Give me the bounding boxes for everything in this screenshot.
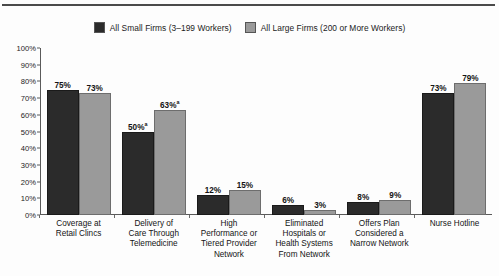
y-axis-tick-label: 70%	[3, 94, 39, 103]
bar-value-label: 75%	[54, 81, 70, 90]
bar-group: 50%a63%a	[116, 48, 191, 215]
footnote-marker: a	[176, 99, 179, 105]
y-axis-tick-mark	[37, 198, 40, 199]
bar-large-firms[interactable]: 63%a	[154, 110, 186, 215]
bar-group: 73%79%	[417, 48, 492, 215]
plot-area: 100%90%80%70%60%50%40%30%20%10%0% 75%73%…	[40, 48, 492, 215]
bar-small-firms[interactable]: 73%	[422, 93, 454, 215]
y-axis-tick-label: 80%	[3, 77, 39, 86]
legend-label-large-firms: All Large Firms (200 or More Workers)	[261, 23, 406, 33]
chart-legend: All Small Firms (3–199 Workers) All Larg…	[0, 22, 499, 33]
x-axis-category-labels: Coverage atRetail ClincsDelivery ofCare …	[41, 219, 492, 260]
bar-small-firms[interactable]: 50%a	[122, 132, 154, 216]
y-axis-tick-label: 100%	[3, 44, 39, 53]
x-axis-category-label: Delivery ofCare ThroughTelemedicine	[116, 219, 191, 260]
y-axis-tick-label: 90%	[3, 60, 39, 69]
x-axis-category-label: Coverage atRetail Clincs	[41, 219, 116, 260]
bar-small-firms[interactable]: 75%	[47, 90, 79, 215]
bar-groups: 75%73%50%a63%a12%15%6%3%8%9%73%79%	[41, 48, 492, 215]
y-axis-tick-label: 10%	[3, 194, 39, 203]
bar-value-label: 79%	[462, 74, 478, 83]
y-axis-tick-label: 60%	[3, 110, 39, 119]
legend-item-large-firms: All Large Firms (200 or More Workers)	[245, 22, 406, 33]
x-axis-tick-mark	[39, 215, 40, 218]
bar-value-label: 6%	[282, 196, 294, 205]
bar-small-firms[interactable]: 6%	[272, 205, 304, 215]
bar-large-firms[interactable]: 73%	[79, 93, 111, 215]
bar-group: 8%9%	[342, 48, 417, 215]
bar-value-label: 3%	[314, 201, 326, 210]
y-axis-tick-mark	[37, 131, 40, 132]
x-axis-category-label: Nurse Hotline	[417, 219, 492, 260]
y-axis-tick-mark	[37, 48, 40, 49]
x-axis-category-label: HighPerformance orTiered ProviderNetwork	[191, 219, 266, 260]
bar-value-label: 50%a	[128, 123, 147, 132]
bar-large-firms[interactable]: 15%	[229, 190, 261, 215]
y-axis-tick-label: 50%	[3, 127, 39, 136]
x-axis-tick-mark	[414, 215, 415, 218]
bar-value-label: 8%	[357, 193, 369, 202]
y-axis-tick-mark	[37, 148, 40, 149]
x-axis-category-label: EliminatedHospitals orHealth SystemsFrom…	[267, 219, 342, 260]
bar-value-label: 73%	[430, 84, 446, 93]
bar-small-firms[interactable]: 12%	[197, 195, 229, 215]
bar-large-firms[interactable]: 79%	[454, 83, 486, 215]
legend-label-small-firms: All Small Firms (3–199 Workers)	[110, 23, 232, 33]
x-axis-tick-mark	[339, 215, 340, 218]
x-axis-tick-mark	[114, 215, 115, 218]
bar-value-label: 73%	[86, 84, 102, 93]
x-axis-tick-mark	[264, 215, 265, 218]
bar-group: 12%15%	[191, 48, 266, 215]
bar-value-label: 15%	[237, 181, 253, 190]
x-axis-category-label: Offers PlanConsidered aNarrow Network	[342, 219, 417, 260]
bar-value-label: 63%a	[160, 101, 179, 110]
bar-small-firms[interactable]: 8%	[347, 202, 379, 215]
y-axis-tick-mark	[37, 114, 40, 115]
bar-large-firms[interactable]: 9%	[379, 200, 411, 215]
y-axis-tick-label: 40%	[3, 144, 39, 153]
legend-item-small-firms: All Small Firms (3–199 Workers)	[94, 22, 232, 33]
bar-value-label: 9%	[389, 191, 401, 200]
footnote-marker: a	[144, 121, 147, 127]
y-axis-tick-mark	[37, 181, 40, 182]
bar-group: 6%3%	[267, 48, 342, 215]
y-axis-tick-mark	[37, 164, 40, 165]
bar-group: 75%73%	[41, 48, 116, 215]
chart-page: All Small Firms (3–199 Workers) All Larg…	[0, 0, 499, 276]
bar-value-label: 12%	[205, 186, 221, 195]
y-axis-tick-mark	[37, 98, 40, 99]
x-axis-tick-mark	[189, 215, 190, 218]
y-axis-tick-label: 30%	[3, 160, 39, 169]
top-divider	[2, 4, 495, 6]
y-axis-tick-mark	[37, 81, 40, 82]
y-axis-tick-label: 20%	[3, 177, 39, 186]
y-axis-tick-mark	[37, 64, 40, 65]
legend-swatch-small-firms	[94, 22, 105, 33]
legend-swatch-large-firms	[245, 22, 256, 33]
